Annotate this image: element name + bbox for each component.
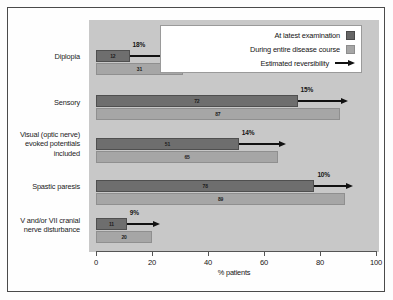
bar-at-latest-examination: 12 (96, 50, 130, 62)
bar-during-entire-disease-course: 65 (96, 151, 278, 163)
x-axis-tick (264, 251, 265, 256)
bar-value-label: 12 (110, 53, 115, 59)
reversibility-percent-label: 9% (130, 209, 139, 216)
x-axis-label: % patients (218, 268, 251, 277)
x-axis-line (96, 251, 377, 252)
bar-value-label: 89 (218, 196, 223, 202)
legend-item-at-latest-examination: At latest examination (275, 29, 355, 41)
bar-during-entire-disease-course: 87 (96, 108, 340, 120)
bar-at-latest-examination: 72 (96, 95, 298, 107)
x-axis: 020406080100 % patients (89, 251, 379, 281)
bar-value-label: 72 (194, 98, 199, 104)
x-axis-tick (376, 251, 377, 256)
reversibility-percent-label: 10% (317, 171, 329, 178)
x-axis-tick-label: 40 (204, 258, 212, 267)
reversibility-arrow-icon (239, 141, 286, 148)
chart-page: 123118%728715%516514%788910%11209% Diplo… (0, 0, 393, 300)
light-swatch-icon (346, 45, 355, 54)
bar-value-label: 31 (137, 66, 142, 72)
category-label: Diplopia (2, 52, 80, 61)
reversibility-arrow-icon (127, 221, 160, 228)
reversibility-percent-label: 18% (133, 41, 145, 48)
category-label: Visual (optic nerve) evoked potentials i… (2, 130, 80, 158)
bar-during-entire-disease-course: 89 (96, 193, 345, 205)
x-axis-tick (152, 251, 153, 256)
bar-at-latest-examination: 78 (96, 180, 314, 192)
chart-legend: At latest examination During entire dise… (160, 25, 362, 73)
bar-during-entire-disease-course: 20 (96, 231, 152, 243)
category-label: Sensory (2, 98, 80, 107)
arrow-icon (335, 60, 355, 67)
bar-value-label: 51 (165, 141, 170, 147)
legend-item-during-entire-disease-course: During entire disease course (250, 43, 355, 55)
bar-value-label: 78 (203, 183, 208, 189)
x-axis-tick (320, 251, 321, 256)
legend-label: During entire disease course (250, 45, 340, 54)
dark-swatch-icon (346, 31, 355, 40)
legend-label: At latest examination (275, 31, 340, 40)
x-axis-tick-label: 60 (260, 258, 268, 267)
bar-value-label: 87 (215, 111, 220, 117)
bar-value-label: 65 (184, 154, 189, 160)
category-label: Spastic paresis (2, 182, 80, 191)
bar-value-label: 20 (121, 234, 126, 240)
legend-label: Estimated reversibility (261, 59, 329, 68)
reversibility-arrow-icon (314, 183, 353, 190)
legend-item-estimated-reversibility: Estimated reversibility (261, 57, 355, 69)
x-axis-tick (208, 251, 209, 256)
reversibility-arrow-icon (298, 98, 348, 105)
category-label: V and/or VII cranial nerve disturbance (2, 216, 80, 235)
reversibility-percent-label: 14% (242, 129, 254, 136)
x-axis-tick-label: 20 (148, 258, 156, 267)
x-axis-tick-label: 80 (316, 258, 324, 267)
bar-value-label: 11 (109, 221, 114, 227)
reversibility-percent-label: 15% (301, 86, 313, 93)
x-axis-tick-label: 100 (370, 258, 382, 267)
x-axis-tick-label: 0 (94, 258, 98, 267)
bar-at-latest-examination: 11 (96, 218, 127, 230)
bar-at-latest-examination: 51 (96, 138, 239, 150)
x-axis-tick (96, 251, 97, 256)
chart-frame: 123118%728715%516514%788910%11209% Diplo… (7, 7, 385, 292)
